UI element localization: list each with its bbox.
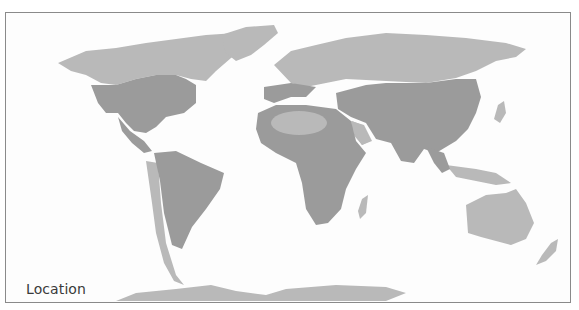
madagascar — [358, 195, 368, 219]
japan — [494, 101, 506, 123]
antarctica — [116, 285, 406, 301]
eurasia-north — [274, 33, 526, 87]
se-asia-islands — [446, 165, 511, 185]
new-zealand — [536, 239, 558, 265]
map-title-label: Location — [26, 281, 86, 297]
location-map-frame: Location — [5, 12, 571, 303]
range-europe-south — [264, 83, 316, 103]
world-map — [6, 13, 569, 301]
greenland — [221, 25, 278, 61]
australia — [466, 189, 534, 245]
